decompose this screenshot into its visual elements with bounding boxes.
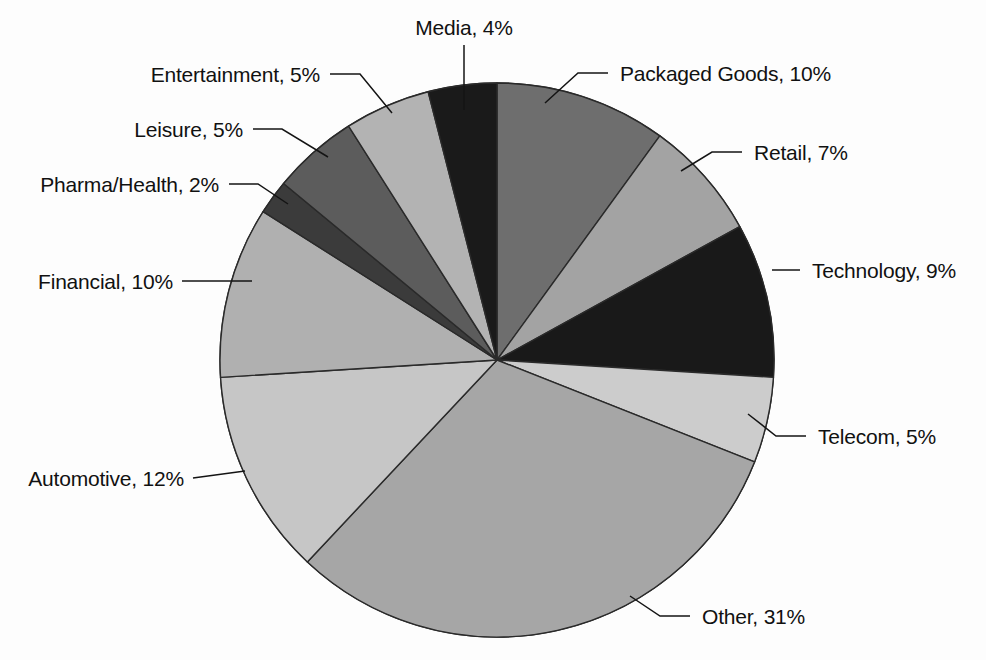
pie-label-retail: Retail, 7% xyxy=(754,142,848,163)
pie-label-entertainment: Entertainment, 5% xyxy=(151,64,320,85)
pie-label-other: Other, 31% xyxy=(702,606,805,627)
chart-canvas: Packaged Goods, 10%Retail, 7%Technology,… xyxy=(0,0,986,660)
pie-label-telecom: Telecom, 5% xyxy=(818,426,936,447)
pie-label-automotive: Automotive, 12% xyxy=(28,468,184,489)
pie-chart-figure: Packaged Goods, 10%Retail, 7%Technology,… xyxy=(0,0,986,660)
pie-label-technology: Technology, 9% xyxy=(812,260,956,281)
pie-slices-group: Packaged Goods, 10%Retail, 7%Technology,… xyxy=(220,83,774,637)
leader-line-automotive xyxy=(193,471,245,478)
pie-label-leisure: Leisure, 5% xyxy=(134,119,243,140)
pie-label-pharma-health: Pharma/Health, 2% xyxy=(40,174,219,195)
pie-label-financial: Financial, 10% xyxy=(38,271,173,292)
leader-line-other xyxy=(630,596,690,616)
pie-label-packaged-goods: Packaged Goods, 10% xyxy=(620,63,831,84)
pie-label-media: Media, 4% xyxy=(415,17,512,38)
